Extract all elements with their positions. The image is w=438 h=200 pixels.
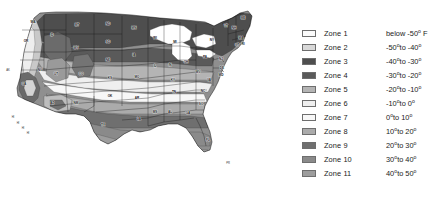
state-label-ri: RI (241, 42, 244, 46)
legend-row[interactable]: Zone 6-10oto 0o (302, 96, 438, 110)
inset-marker-pr-4: PR (226, 161, 230, 165)
state-label-or: OR (24, 39, 29, 43)
legend-zone-label: Zone 9 (324, 141, 370, 150)
legend-zone-label: Zone 11 (324, 169, 370, 178)
state-label-nd: ND (106, 22, 111, 26)
usa-hardiness-map: WAORCANVIDMTWYUTAZCONMNDSDNEKSOKTXMNIAMO… (0, 0, 300, 200)
state-label-ca: CA (22, 82, 27, 86)
legend-row[interactable]: Zone 920oto 30o (302, 138, 438, 152)
state-label-al: AL (168, 110, 172, 114)
legend-zone-label: Zone 6 (324, 99, 370, 108)
state-label-ms: MS (153, 110, 158, 114)
legend-temperature-range: 30oto 40o (370, 155, 438, 164)
state-label-ma: MA (239, 36, 245, 40)
legend-row[interactable]: Zone 5-20oto -10o (302, 82, 438, 96)
legend-zone-label: Zone 7 (324, 113, 370, 122)
state-label-wi: WI (153, 36, 157, 40)
state-label-ut: UT (54, 72, 58, 76)
legend-row[interactable]: Zone 1030oto 40o (302, 152, 438, 166)
state-label-ct: CT (235, 43, 239, 47)
legend-row[interactable]: Zone 3-40oto -30o (302, 54, 438, 68)
legend-temperature-range: 40oto 50o (370, 169, 438, 178)
legend-temperature-range: below -50o F (370, 29, 438, 38)
state-label-nc: NC (201, 89, 206, 93)
legend-swatch-zone-5 (302, 86, 316, 93)
legend-swatch-zone-1 (302, 30, 316, 37)
inset-marker-hi-2: HI (22, 126, 25, 130)
state-label-me: ME (241, 16, 246, 20)
state-label-co: CO (79, 72, 84, 76)
state-label-ks: KS (108, 76, 112, 80)
state-label-ne: NE (106, 58, 110, 62)
state-label-mt: MT (75, 23, 80, 27)
legend-row[interactable]: Zone 1140oto 50o (302, 166, 438, 180)
legend-row[interactable]: Zone 1below -50o F (302, 26, 438, 40)
legend-temperature-range: 20oto 30o (370, 141, 438, 150)
legend-temperature-range: -30oto -20o (370, 71, 438, 80)
legend-swatch-zone-11 (302, 170, 316, 177)
legend-temperature-range: 0oto 10o (370, 113, 438, 122)
state-label-md: MD (219, 73, 225, 77)
map-svg: WAORCANVIDMTWYUTAZCONMNDSDNEKSOKTXMNIAMO… (0, 0, 300, 200)
legend-swatch-zone-3 (302, 58, 316, 65)
legend-zone-label: Zone 3 (324, 57, 370, 66)
inset-marker-hi-3: HI (27, 131, 30, 135)
legend-row[interactable]: Zone 4-30oto -20o (302, 68, 438, 82)
state-label-mn: MN (132, 26, 138, 30)
inset-marker-ak-5: AK (6, 68, 10, 72)
legend-swatch-zone-4 (302, 72, 316, 79)
legend-swatch-zone-8 (302, 128, 316, 135)
hardiness-zone-legend: Zone 1below -50o FZone 2-50oto -40oZone … (302, 26, 438, 180)
legend-temperature-range: -40oto -30o (370, 57, 438, 66)
state-label-az: AZ (50, 101, 54, 105)
legend-zone-label: Zone 1 (324, 29, 370, 38)
inset-marker-hi-1: HI (17, 121, 20, 125)
legend-swatch-zone-6 (302, 100, 316, 107)
legend-swatch-zone-9 (302, 142, 316, 149)
legend-zone-label: Zone 2 (324, 43, 370, 52)
state-label-oh: OH (184, 60, 189, 64)
legend-swatch-zone-7 (302, 114, 316, 121)
hardiness-zone-figure: WAORCANVIDMTWYUTAZCONMNDSDNEKSOKTXMNIAMO… (0, 0, 438, 200)
inset-marker-hi-0: HI (12, 115, 15, 119)
state-label-mo: MO (135, 75, 141, 79)
legend-temperature-range: -50oto -40o (370, 43, 438, 52)
legend-temperature-range: -10oto 0o (370, 99, 438, 108)
state-label-sd: SD (106, 40, 111, 44)
legend-zone-label: Zone 10 (324, 155, 370, 164)
legend-swatch-zone-2 (302, 44, 316, 51)
state-label-fl: FL (206, 138, 210, 142)
state-label-ga: GA (186, 111, 191, 115)
legend-zone-label: Zone 8 (324, 127, 370, 136)
state-label-mi: MI (173, 40, 177, 44)
legend-swatch-zone-10 (302, 156, 316, 163)
legend-temperature-range: 10oto 20o (370, 127, 438, 136)
legend-row[interactable]: Zone 70oto 10o (302, 110, 438, 124)
legend-row[interactable]: Zone 2-50oto -40o (302, 40, 438, 54)
legend-zone-label: Zone 5 (324, 85, 370, 94)
state-label-nm: NM (74, 101, 79, 105)
legend-zone-label: Zone 4 (324, 71, 370, 80)
state-label-ok: OK (108, 94, 113, 98)
state-label-nj: NJ (219, 57, 223, 61)
state-label-nh: NH (232, 26, 237, 30)
legend-temperature-range: -20oto -10o (370, 85, 438, 94)
state-label-il: IL (154, 64, 157, 68)
legend-row[interactable]: Zone 810oto 20o (302, 124, 438, 138)
state-label-de: DE (220, 66, 224, 70)
state-label-ar: AR (135, 96, 140, 100)
state-label-sc: SC (199, 102, 204, 106)
state-label-wa: WA (31, 20, 37, 24)
state-label-vt: VT (224, 24, 228, 28)
